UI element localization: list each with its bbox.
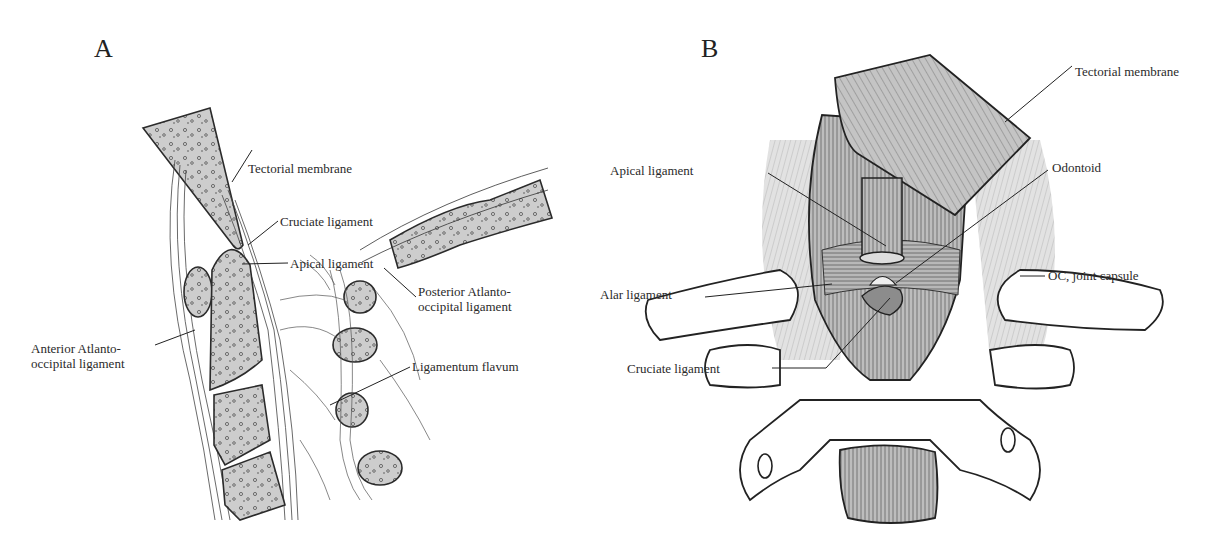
panel-b-posterior-view: B Tectorial membrane Apical ligament Odo… [600, 0, 1209, 535]
posterior-occiput [390, 180, 552, 268]
axis-dens [210, 250, 262, 390]
c3-vertebra [214, 385, 270, 465]
label-apical-ligament-b: Apical ligament [610, 163, 693, 178]
label-posterior-ao-line1: Posterior Atlanto- [418, 284, 512, 299]
label-cruciate-ligament-b: Cruciate ligament [627, 361, 720, 376]
label-oc-joint-capsule: OC, joint capsule [1048, 268, 1139, 283]
label-odontoid: Odontoid [1052, 160, 1101, 175]
label-posterior-ao-ligament: Posterior Atlanto- occipital ligament [418, 284, 512, 314]
panel-b-letter: B [701, 34, 718, 64]
occiput-bone [143, 108, 243, 249]
label-anterior-ao-ligament: Anterior Atlanto- occipital ligament [31, 341, 125, 371]
label-tectorial-membrane-b: Tectorial membrane [1075, 64, 1179, 79]
label-anterior-ao-line2: occipital ligament [31, 356, 125, 371]
label-cruciate-ligament-a: Cruciate ligament [280, 214, 373, 229]
label-ligamentum-flavum: Ligamentum flavum [412, 359, 519, 374]
label-anterior-ao-line1: Anterior Atlanto- [31, 341, 125, 356]
panel-a-sagittal-view: A Tectorial membrane Cruciate ligament A… [0, 0, 600, 535]
panel-a-letter: A [94, 34, 113, 64]
label-posterior-ao-line2: occipital ligament [418, 299, 512, 314]
c4-spinous [358, 451, 402, 485]
label-apical-ligament-a: Apical ligament [290, 256, 373, 271]
label-alar-ligament: Alar ligament [600, 287, 672, 302]
posterior-longitudinal-ligament [840, 445, 938, 523]
label-tectorial-membrane-a: Tectorial membrane [248, 161, 352, 176]
atlas-anterior-arch [184, 267, 212, 317]
